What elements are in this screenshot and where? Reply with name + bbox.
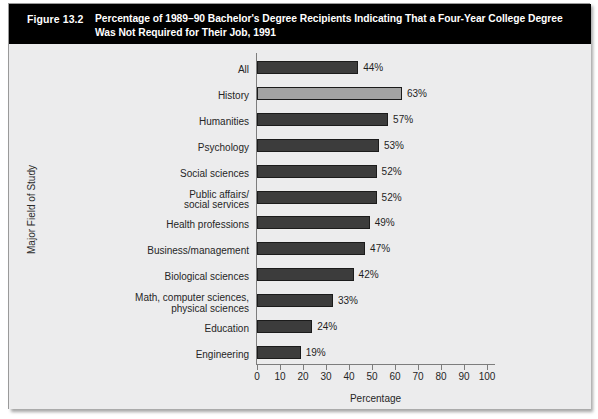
bar-value-label: 53% xyxy=(384,139,404,152)
x-axis-tick xyxy=(326,365,327,370)
bar xyxy=(257,165,377,178)
bar-value-label: 52% xyxy=(382,165,402,178)
x-axis-tick-label: 20 xyxy=(291,371,315,382)
figure-header: Figure 13.2 Percentage of 1989–90 Bachel… xyxy=(9,4,591,44)
bar-row: 44% xyxy=(257,61,557,74)
bar-value-label: 63% xyxy=(407,87,427,100)
bar-value-label: 47% xyxy=(370,242,390,255)
x-axis-tick-label: 80 xyxy=(429,371,453,382)
bar-row: 33% xyxy=(257,294,557,307)
bar-value-label: 24% xyxy=(317,320,337,333)
figure-number: Figure 13.2 xyxy=(27,13,84,25)
bar xyxy=(257,61,358,74)
y-axis-tick-label: All xyxy=(127,65,249,76)
bar-row: 57% xyxy=(257,113,557,126)
bar xyxy=(257,268,354,281)
bar xyxy=(257,346,301,359)
y-axis-tick-label: Health professions xyxy=(127,220,249,231)
y-axis-tick-label: Engineering xyxy=(127,350,249,361)
x-axis-line xyxy=(256,364,495,365)
bar xyxy=(257,320,312,333)
figure-frame: Figure 13.2 Percentage of 1989–90 Bachel… xyxy=(8,3,590,409)
bar-row: 42% xyxy=(257,268,557,281)
x-axis-tick-label: 100 xyxy=(475,371,499,382)
y-axis-tick-label: Psychology xyxy=(127,143,249,154)
x-axis-tick xyxy=(418,365,419,370)
bar-row: 47% xyxy=(257,242,557,255)
y-axis-tick-label: Math, computer sciences, physical scienc… xyxy=(127,293,249,314)
bar-row: 63% xyxy=(257,87,557,100)
x-axis-title: Percentage xyxy=(256,393,495,404)
x-axis-tick-label: 40 xyxy=(337,371,361,382)
bars-area: 44%63%57%53%52%52%49%47%42%33%24%19% xyxy=(257,53,557,364)
bar-row: 49% xyxy=(257,216,557,229)
x-axis-tick xyxy=(487,365,488,370)
bar-value-label: 44% xyxy=(363,61,383,74)
x-axis-tick xyxy=(303,365,304,370)
bar xyxy=(257,191,377,204)
y-axis-title: Major Field of Study xyxy=(26,140,37,280)
bar-row: 52% xyxy=(257,191,557,204)
x-axis-tick-label: 10 xyxy=(268,371,292,382)
bar-row: 24% xyxy=(257,320,557,333)
bar-value-label: 52% xyxy=(382,191,402,204)
x-axis-tick-label: 90 xyxy=(452,371,476,382)
bar-row: 53% xyxy=(257,139,557,152)
bar-value-label: 33% xyxy=(338,294,358,307)
y-axis-tick-label: Education xyxy=(127,324,249,335)
x-axis-tick-label: 60 xyxy=(383,371,407,382)
bar xyxy=(257,216,370,229)
bar xyxy=(257,113,388,126)
y-axis-tick-label: Humanities xyxy=(127,117,249,128)
y-axis-tick-label: History xyxy=(127,91,249,102)
x-axis-tick xyxy=(280,365,281,370)
x-axis-tick xyxy=(464,365,465,370)
y-axis-tick-label: Social sciences xyxy=(127,169,249,180)
x-axis-tick-label: 70 xyxy=(406,371,430,382)
bar-row: 19% xyxy=(257,346,557,359)
x-axis-tick xyxy=(441,365,442,370)
y-axis-tick-label: Business/management xyxy=(127,246,249,257)
y-axis-tick-label: Biological sciences xyxy=(127,272,249,283)
x-axis-tick xyxy=(349,365,350,370)
bar-value-label: 57% xyxy=(393,113,413,126)
bar-value-label: 19% xyxy=(306,346,326,359)
bar xyxy=(257,87,402,100)
bar-row: 52% xyxy=(257,165,557,178)
bar-value-label: 42% xyxy=(359,268,379,281)
bar xyxy=(257,242,365,255)
chart-panel: Major Field of Study AllHistoryHumanitie… xyxy=(9,44,591,409)
bar xyxy=(257,294,333,307)
x-axis-tick xyxy=(395,365,396,370)
y-axis-tick-label: Public affairs/ social services xyxy=(127,190,249,211)
x-axis-tick-label: 30 xyxy=(314,371,338,382)
bar xyxy=(257,139,379,152)
x-axis-tick xyxy=(257,365,258,370)
x-axis-tick-label: 0 xyxy=(245,371,269,382)
bar-value-label: 49% xyxy=(375,216,395,229)
figure-root: Figure 13.2 Percentage of 1989–90 Bachel… xyxy=(0,0,598,419)
x-axis-tick-label: 50 xyxy=(360,371,384,382)
x-axis-tick xyxy=(372,365,373,370)
figure-title: Percentage of 1989–90 Bachelor's Degree … xyxy=(95,12,581,39)
